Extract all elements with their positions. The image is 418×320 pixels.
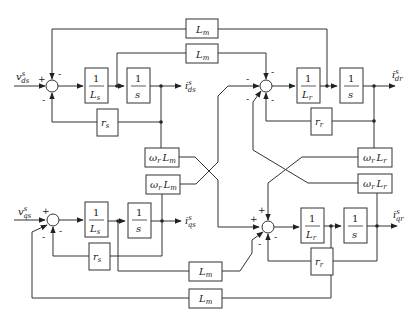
output-label-iqr: isqr xyxy=(393,208,404,223)
svg-text:+: + xyxy=(250,214,258,224)
sum-junction-dr xyxy=(260,80,272,92)
svg-text:1: 1 xyxy=(135,73,141,84)
svg-text:-: - xyxy=(246,94,249,104)
svg-text:+: + xyxy=(38,74,46,84)
output-label-ids: isds xyxy=(185,79,196,94)
svg-text:1: 1 xyxy=(93,207,99,218)
svg-text:-: - xyxy=(42,232,45,242)
block-diagram: vsds vsqs isds isqs isdr isqr 1 Ls 1 s r… xyxy=(0,0,418,320)
svg-text:s: s xyxy=(352,229,357,240)
sum-junction-qr xyxy=(262,221,274,233)
svg-text:s: s xyxy=(348,89,353,100)
svg-text:-: - xyxy=(271,67,274,77)
input-label-vds: vsds xyxy=(16,70,30,85)
input-label-vqs: vsqs xyxy=(18,205,32,220)
output-label-idr: isdr xyxy=(392,68,403,83)
sum-junction-ds xyxy=(46,80,58,92)
q-stator-loop xyxy=(14,202,189,298)
svg-text:s: s xyxy=(135,89,140,100)
svg-text:-: - xyxy=(59,226,62,236)
svg-text:-: - xyxy=(258,239,261,249)
d-stator-loop xyxy=(14,29,186,148)
output-label-iqs: isqs xyxy=(185,214,196,229)
svg-text:-: - xyxy=(42,95,45,105)
svg-text:1: 1 xyxy=(93,73,99,84)
svg-text:1: 1 xyxy=(305,73,311,84)
svg-text:-: - xyxy=(271,95,274,105)
svg-text:-: - xyxy=(246,74,249,84)
svg-text:1: 1 xyxy=(136,207,142,218)
svg-text:-: - xyxy=(58,69,61,79)
svg-text:s: s xyxy=(136,223,141,234)
svg-text:1: 1 xyxy=(348,73,354,84)
svg-text:+: + xyxy=(258,205,266,215)
svg-text:+: + xyxy=(42,206,50,216)
svg-text:-: - xyxy=(274,232,277,242)
svg-text:1: 1 xyxy=(309,213,315,224)
svg-text:1: 1 xyxy=(352,213,358,224)
